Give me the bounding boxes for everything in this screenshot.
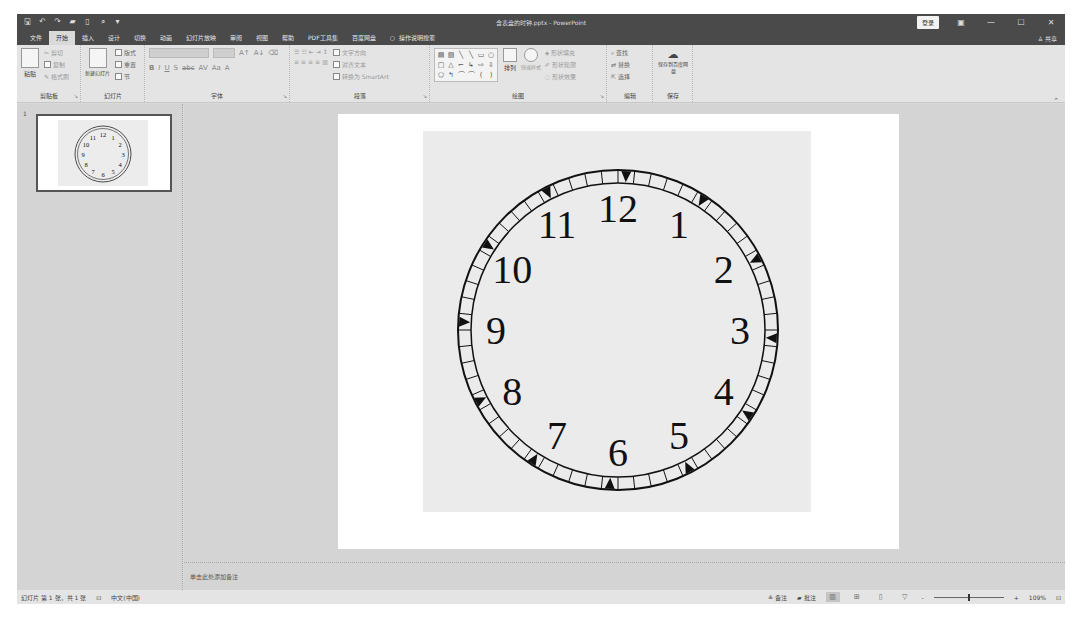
select-button[interactable]: ⇱选择 bbox=[611, 72, 630, 81]
shape-icon[interactable]: ⌒ bbox=[467, 71, 475, 79]
shape-icon[interactable]: ▢ bbox=[437, 61, 445, 69]
format-painter-button[interactable]: ✎格式刷 bbox=[44, 72, 69, 81]
tab-baidu-netdisk[interactable]: 百度网盘 bbox=[345, 31, 383, 45]
shape-icon[interactable]: △ bbox=[447, 61, 455, 69]
shape-icon[interactable]: ⇨ bbox=[477, 61, 485, 69]
ribbon-display-options-icon[interactable]: ▣ bbox=[953, 18, 969, 27]
columns-icon[interactable]: ▥ bbox=[322, 58, 328, 65]
slideshow-icon[interactable]: ▽ bbox=[898, 592, 912, 602]
tab-transitions[interactable]: 切换 bbox=[127, 31, 153, 45]
slide-canvas[interactable]: 121234567891011 bbox=[338, 114, 899, 549]
tab-home[interactable]: 开始 bbox=[49, 31, 75, 45]
shape-icon[interactable]: ⌒ bbox=[457, 71, 465, 79]
increase-indent-icon[interactable]: ⇥ bbox=[316, 48, 321, 55]
justify-icon[interactable]: ≡ bbox=[315, 58, 320, 65]
font-size-dropdown[interactable] bbox=[213, 48, 235, 58]
zoom-slider[interactable] bbox=[934, 597, 1004, 598]
find-button[interactable]: ⌕查找 bbox=[611, 48, 630, 57]
numbering-icon[interactable]: ☷ bbox=[301, 48, 306, 55]
char-spacing-icon[interactable]: AV bbox=[199, 64, 208, 72]
shape-icon[interactable]: ↳ bbox=[467, 61, 475, 69]
align-center-icon[interactable]: ≡ bbox=[301, 58, 306, 65]
normal-view-icon[interactable]: ▥ bbox=[826, 592, 840, 602]
shape-icon[interactable]: ↰ bbox=[447, 71, 455, 79]
shape-icon[interactable]: ⇩ bbox=[487, 61, 495, 69]
cut-button[interactable]: ✂剪切 bbox=[44, 48, 69, 57]
font-name-dropdown[interactable] bbox=[149, 48, 209, 58]
close-icon[interactable]: ✕ bbox=[1043, 18, 1059, 27]
shape-icon[interactable]: ) bbox=[487, 71, 495, 79]
decrease-font-size-icon[interactable]: A↓ bbox=[254, 49, 265, 57]
tab-pdf-tools[interactable]: PDF工具集 bbox=[301, 31, 345, 45]
shape-icon[interactable]: ▤ bbox=[437, 51, 445, 59]
dialog-launcher-icon[interactable]: ↘ bbox=[283, 93, 287, 99]
language-indicator[interactable]: 中文(中国) bbox=[111, 593, 140, 602]
shape-icon[interactable]: ⬠ bbox=[437, 71, 445, 79]
copy-button[interactable]: 复制 bbox=[44, 60, 69, 69]
tab-review[interactable]: 审阅 bbox=[223, 31, 249, 45]
bullets-icon[interactable]: ☰ bbox=[294, 48, 299, 55]
clear-formatting-icon[interactable]: ⌫ bbox=[268, 49, 278, 57]
reading-view-icon[interactable]: ▯ bbox=[874, 592, 888, 602]
shape-outline-button[interactable]: ✐形状轮廓 bbox=[545, 60, 576, 69]
align-text-button[interactable]: 对齐文本 bbox=[333, 60, 389, 69]
maximize-icon[interactable]: ☐ bbox=[1013, 18, 1029, 27]
arrange-button[interactable]: 排列 bbox=[503, 48, 517, 72]
tab-help[interactable]: 帮助 bbox=[275, 31, 301, 45]
layout-button[interactable]: 版式 bbox=[115, 48, 136, 57]
increase-font-size-icon[interactable]: A↑ bbox=[239, 49, 250, 57]
shadow-icon[interactable]: S bbox=[174, 64, 178, 72]
notes-placeholder[interactable]: 单击此处添加备注 bbox=[190, 572, 238, 581]
slide-thumbnail[interactable]: 1212 345 678 91011 bbox=[36, 114, 172, 192]
fit-to-window-icon[interactable]: ⊡ bbox=[1056, 594, 1061, 601]
font-color-icon[interactable]: A bbox=[225, 64, 230, 72]
section-button[interactable]: 节 bbox=[115, 72, 136, 81]
convert-smartart-button[interactable]: 转换为 SmartArt bbox=[333, 72, 389, 81]
italic-icon[interactable]: I bbox=[158, 64, 160, 72]
zoom-out-button[interactable]: - bbox=[922, 594, 924, 601]
shape-icon[interactable]: ╲ bbox=[467, 51, 475, 59]
minimize-icon[interactable]: — bbox=[983, 18, 999, 27]
shape-icon[interactable]: ▧ bbox=[447, 51, 455, 59]
decrease-indent-icon[interactable]: ⇤ bbox=[309, 48, 314, 55]
login-button[interactable]: 登录 bbox=[917, 16, 939, 29]
paste-button[interactable]: 粘贴 bbox=[21, 48, 39, 78]
tab-slideshow[interactable]: 幻灯片放映 bbox=[179, 31, 223, 45]
comments-toggle-button[interactable]: ▰ 批注 bbox=[797, 593, 816, 602]
tab-view[interactable]: 视图 bbox=[249, 31, 275, 45]
bold-icon[interactable]: B bbox=[149, 64, 154, 72]
underline-icon[interactable]: U bbox=[164, 64, 169, 72]
accessibility-icon[interactable]: ⊡ bbox=[96, 594, 101, 601]
shapes-gallery[interactable]: ▤ ▧ ╲ ╲ ▭ ○ ▢ △ ⌐ ↳ ⇨ ⇩ ⬠ ↰ ⌒ ⌒ ( ) bbox=[434, 48, 498, 82]
zoom-slider-thumb[interactable] bbox=[968, 594, 970, 601]
tell-me-search[interactable]: ○ 操作说明搜索 bbox=[383, 31, 442, 45]
shape-icon[interactable]: ╲ bbox=[457, 51, 465, 59]
share-button[interactable]: ♙ 共享 bbox=[1038, 34, 1057, 43]
shape-icon[interactable]: ▭ bbox=[477, 51, 485, 59]
save-to-baidu-button[interactable]: ☁ 保存到百度网盘 bbox=[657, 48, 689, 75]
notes-pane[interactable]: 单击此处添加备注 bbox=[184, 562, 1065, 590]
reset-button[interactable]: 重置 bbox=[115, 60, 136, 69]
dialog-launcher-icon[interactable]: ↘ bbox=[74, 93, 78, 99]
shape-icon[interactable]: ⌐ bbox=[457, 61, 465, 69]
dialog-launcher-icon[interactable]: ↘ bbox=[600, 93, 604, 99]
tab-animations[interactable]: 动画 bbox=[153, 31, 179, 45]
notes-toggle-button[interactable]: ≙ 备注 bbox=[768, 593, 787, 602]
text-direction-button[interactable]: 文字方向 bbox=[333, 48, 389, 57]
strikethrough-icon[interactable]: abc bbox=[182, 64, 195, 72]
align-left-icon[interactable]: ≡ bbox=[294, 58, 299, 65]
dialog-launcher-icon[interactable]: ↘ bbox=[423, 93, 427, 99]
quick-styles-button[interactable]: 快速样式 bbox=[521, 48, 541, 70]
tab-design[interactable]: 设计 bbox=[101, 31, 127, 45]
tab-insert[interactable]: 插入 bbox=[75, 31, 101, 45]
shape-fill-button[interactable]: ◈形状填充 bbox=[545, 48, 576, 57]
slide-sorter-icon[interactable]: ⊞ bbox=[850, 592, 864, 602]
clock-face-image[interactable]: 121234567891011 bbox=[423, 131, 811, 512]
zoom-in-button[interactable]: + bbox=[1014, 594, 1019, 601]
zoom-level[interactable]: 109% bbox=[1029, 594, 1046, 601]
tab-file[interactable]: 文件 bbox=[23, 31, 49, 45]
shape-icon[interactable]: ○ bbox=[487, 51, 495, 59]
shape-icon[interactable]: ( bbox=[477, 71, 485, 79]
replace-button[interactable]: ⇄替换 bbox=[611, 60, 630, 69]
line-spacing-icon[interactable]: ↕ bbox=[323, 48, 328, 55]
